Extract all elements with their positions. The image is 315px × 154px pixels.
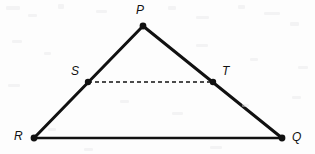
vertex-label-T: T: [222, 65, 229, 77]
vertex-dot-S: [85, 79, 91, 85]
vertex-label-R: R: [14, 130, 23, 142]
vertex-dot-P: [140, 23, 147, 30]
vertex-label-Q: Q: [292, 131, 301, 143]
vertex-dot-Q: [279, 135, 286, 142]
geometry-figure: P S T R Q: [0, 0, 315, 154]
vertex-label-S: S: [71, 65, 79, 77]
vertex-label-P: P: [136, 4, 144, 16]
triangle-diagram-svg: [0, 0, 315, 154]
vertex-dot-T: [210, 79, 216, 85]
vertex-dot-R: [31, 135, 38, 142]
